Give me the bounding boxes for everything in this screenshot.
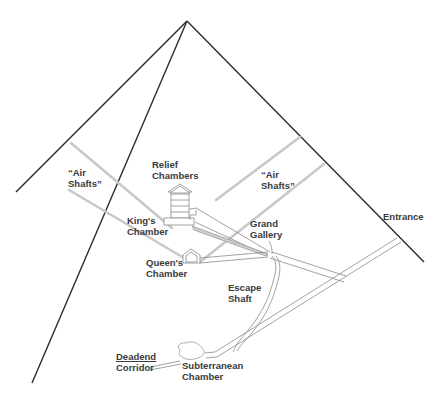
air-shafts	[69, 137, 324, 262]
label-queens-chamber: Queen's Chamber	[146, 258, 187, 279]
subterranean-chamber	[178, 342, 204, 360]
label-air-shafts-left: “Air Shafts”	[68, 168, 102, 189]
label-entrance: Entrance	[383, 212, 424, 223]
pyramid-front-edge	[32, 21, 187, 383]
label-kings-chamber: King's Chamber	[127, 216, 168, 237]
pyramid-outline	[16, 21, 424, 383]
label-escape-shaft: Escape Shaft	[228, 283, 261, 304]
label-subterranean-chamber: Subterranean Chamber	[182, 361, 243, 382]
kings-chamber	[164, 218, 194, 225]
label-air-shafts-right: “Air Shafts”	[261, 170, 295, 191]
label-relief-chambers: Relief Chambers	[152, 160, 198, 181]
escape-shaft	[233, 256, 276, 352]
kings-chamber-structure	[164, 184, 196, 225]
label-deadend-corridor: Deadend Corridor	[116, 352, 156, 373]
pyramid-cross-section-diagram	[0, 0, 441, 398]
label-grand-gallery: Grand Gallery	[250, 219, 282, 240]
pyramid-right-edge	[187, 21, 424, 262]
